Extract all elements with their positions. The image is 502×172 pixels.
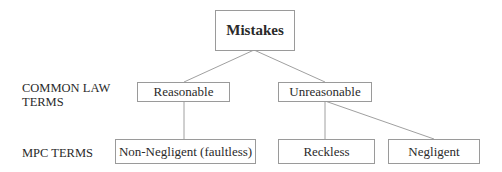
row-label-line: COMMON LAW	[22, 81, 110, 95]
node-reckless: Reckless	[278, 139, 375, 164]
row-label-common-law: COMMON LAW TERMS	[22, 81, 110, 109]
node-label: Reckless	[303, 144, 349, 160]
node-label: Negligent	[408, 144, 459, 160]
row-label-line: MPC TERMS	[22, 146, 93, 160]
node-unreasonable: Unreasonable	[278, 82, 372, 102]
node-label: Unreasonable	[289, 84, 360, 100]
node-label: Reasonable	[154, 84, 214, 100]
node-negligent: Negligent	[388, 139, 480, 164]
node-label: Mistakes	[226, 22, 284, 39]
row-label-line: TERMS	[22, 95, 110, 109]
row-label-mpc: MPC TERMS	[22, 146, 93, 160]
node-reasonable: Reasonable	[137, 82, 230, 102]
node-non-negligent: Non-Negligent (faultless)	[115, 139, 256, 164]
node-mistakes: Mistakes	[215, 10, 295, 51]
edge-mistakes-unreasonable	[254, 50, 325, 82]
node-label: Non-Negligent (faultless)	[119, 144, 252, 160]
edge-unreasonable-negligent	[325, 101, 434, 139]
edge-mistakes-reasonable	[184, 50, 254, 82]
